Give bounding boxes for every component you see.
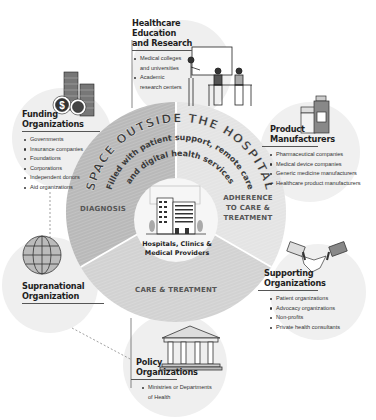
list-item: Non-profits: [268, 313, 368, 323]
list-item: Governments: [22, 135, 102, 145]
title-line: Product: [270, 124, 372, 134]
stakeholder-funding: Funding Organizations Governments Insura…: [22, 109, 102, 193]
title-line: and Research: [132, 38, 202, 48]
list-item: Private health consultants: [268, 323, 368, 333]
center-label-line2: Medical Providers: [136, 249, 218, 258]
title-line: Healthcare Education: [132, 18, 202, 38]
divider: [132, 50, 192, 51]
adherence-label-line: TREATMENT: [216, 213, 280, 223]
center-label: Hospitals, Clinics & Medical Providers: [136, 240, 218, 258]
stakeholder-product: Product Manufacturers Pharmaceutical com…: [262, 124, 372, 188]
title-line: Organizations: [136, 367, 226, 377]
adherence-label-line: ADHERENCE: [216, 193, 280, 203]
divider: [22, 131, 100, 132]
stakeholder-title: Product Manufacturers: [262, 124, 372, 144]
diagnosis-label-text: DIAGNOSIS: [70, 204, 136, 214]
stakeholder-list: Patient organizations Advocacy organizat…: [268, 294, 368, 332]
list-item: Foundations: [22, 154, 102, 164]
title-line: Organization: [22, 291, 108, 301]
list-item: Medical device companies: [268, 160, 372, 170]
list-item: Medical colleges: [132, 54, 202, 64]
stakeholder-title: Funding Organizations: [22, 109, 102, 129]
title-line: Funding: [22, 109, 102, 119]
stakeholder-title: Healthcare Education and Research: [132, 18, 202, 48]
list-item: Academic: [132, 73, 202, 83]
list-item: Healthcare product manufacturers: [268, 179, 372, 189]
stakeholder-title: Supranational Organization: [22, 281, 108, 301]
list-item: Patient organizations: [268, 294, 368, 304]
globe-icon: [23, 236, 61, 274]
diagnosis-label: DIAGNOSIS: [70, 204, 136, 214]
list-item: research centers: [132, 83, 202, 93]
divider: [22, 303, 104, 304]
title-line: Supranational: [22, 281, 108, 291]
stakeholder-list: Ministries or Departments of Health: [140, 383, 226, 402]
center-label-line1: Hospitals, Clinics &: [136, 240, 218, 249]
list-item: Corporations: [22, 164, 102, 174]
list-item: Advocacy organizations: [268, 304, 368, 314]
adherence-label: ADHERENCE TO CARE & TREATMENT: [216, 193, 280, 223]
title-line: Supporting: [264, 268, 368, 278]
stakeholder-title: Supporting Organizations: [258, 268, 368, 288]
stakeholder-education: Healthcare Education and Research Medica…: [132, 18, 202, 92]
title-line: Organizations: [264, 278, 368, 288]
care-label: CARE & TREATMENT: [126, 285, 226, 295]
adherence-label-line: TO CARE &: [216, 203, 280, 213]
dashed-connector: [72, 328, 132, 360]
list-item: Independent donors: [22, 173, 102, 183]
title-line: Organizations: [22, 119, 102, 129]
stakeholder-list: Pharmaceutical companies Medical device …: [268, 150, 372, 188]
stakeholder-policy: Policy Organizations Ministries or Depar…: [136, 357, 226, 402]
divider: [262, 146, 318, 147]
list-item: Generic medicine manufacturers: [268, 169, 372, 179]
list-item: Insurance companies: [22, 145, 102, 155]
list-item: Ministries or Departments: [140, 383, 226, 393]
title-line: Manufacturers: [270, 134, 372, 144]
divider: [258, 290, 318, 291]
stakeholder-supporting: Supporting Organizations Patient organiz…: [258, 268, 368, 332]
stakeholder-title: Policy Organizations: [136, 357, 226, 377]
divider: [131, 379, 177, 380]
stakeholder-diagram: SPACE OUTSIDE THE HOSPITAL Filled with p…: [0, 0, 376, 420]
stakeholder-supranational: Supranational Organization: [22, 281, 108, 304]
stakeholder-list: Medical colleges and universities Academ…: [132, 54, 202, 92]
list-item: and universities: [132, 64, 202, 74]
list-item: Pharmaceutical companies: [268, 150, 372, 160]
list-item: Aid organizations: [22, 183, 102, 193]
title-line: Policy: [136, 357, 226, 367]
list-item: of Health: [140, 393, 226, 403]
stakeholder-list: Governments Insurance companies Foundati…: [22, 135, 102, 193]
care-label-text: CARE & TREATMENT: [126, 285, 226, 295]
